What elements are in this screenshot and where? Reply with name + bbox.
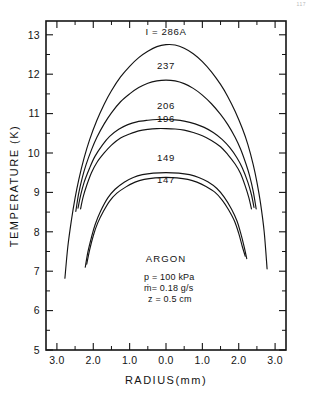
annotation-pressure: p = 100 kPa xyxy=(144,272,195,282)
y-axis-tick-label: 7 xyxy=(34,265,40,277)
y-axis-tick-label: 5 xyxy=(34,344,40,356)
annotation-block: ARGON p = 100 kPa ṁ= 0.18 g/s z = 0.5 cm xyxy=(144,253,195,304)
x-axis-tick-label: 1.0 xyxy=(122,354,138,366)
x-axis-tick-labels: 3.02.01.00.01.02.03.0 xyxy=(49,354,283,366)
x-axis-tick-label: 3.0 xyxy=(267,354,283,366)
x-axis-tick-label: 1.0 xyxy=(195,354,211,366)
x-axis-tick-label: 3.0 xyxy=(49,354,65,366)
annotation-gas: ARGON xyxy=(146,253,187,264)
curve-147 xyxy=(87,177,246,264)
y-axis-tick-label: 6 xyxy=(34,304,40,316)
y-axis-tick-label: 13 xyxy=(28,29,40,41)
y-axis-tick-labels: 5678910111213 xyxy=(28,29,40,356)
curve-label-286: I = 286A xyxy=(146,26,187,37)
x-axis-tick-label: 2.0 xyxy=(86,354,102,366)
x-axis-tick-label: 2.0 xyxy=(231,354,247,366)
y-axis-tick-label: 9 xyxy=(34,186,40,198)
y-axis-tick-label: 12 xyxy=(28,68,40,80)
y-axis-title: TEMPERATURE (K) xyxy=(8,125,20,248)
curve-label-147: 147 xyxy=(157,174,175,185)
y-axis-tick-label: 10 xyxy=(28,147,40,159)
x-axis-title: RADIUS(mm) xyxy=(125,374,207,386)
curve-label-149: 149 xyxy=(157,152,175,163)
annotation-mass-flow: ṁ= 0.18 g/s xyxy=(144,283,194,293)
y-axis-tick-label: 11 xyxy=(29,107,41,119)
y-axis-tick-label: 8 xyxy=(34,226,40,238)
curve-label-196: 196 xyxy=(157,113,175,124)
curve-206 xyxy=(78,119,254,208)
figure-container: 117 5678910111213 3.02.01.00.01.02.03.0 … xyxy=(0,0,310,407)
temperature-radius-chart: 5678910111213 3.02.01.00.01.02.03.0 I = … xyxy=(0,0,310,407)
x-axis-tick-label: 0.0 xyxy=(158,354,174,366)
curve-label-237: 237 xyxy=(157,60,175,71)
curve-label-206: 206 xyxy=(157,100,175,111)
annotation-axial-position: z = 0.5 cm xyxy=(148,294,192,304)
